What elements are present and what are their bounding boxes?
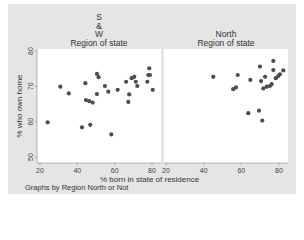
data-point <box>109 132 113 136</box>
data-point <box>151 88 155 92</box>
data-point <box>116 88 120 92</box>
by-note: Graphs by Region North or Not <box>25 183 128 192</box>
data-point <box>91 100 95 104</box>
data-point <box>106 90 110 94</box>
x-tick-label: 60 <box>111 167 119 174</box>
y-axis-title: % who own home <box>15 74 24 137</box>
x-tick-label: 40 <box>73 167 81 174</box>
data-point <box>147 66 151 70</box>
data-point <box>46 120 50 124</box>
x-tick-label: 80 <box>148 167 156 174</box>
y-tick-label: 70 <box>27 82 34 90</box>
data-point <box>271 68 275 72</box>
data-point <box>281 68 285 72</box>
data-point <box>278 72 282 76</box>
data-point <box>234 85 238 89</box>
x-tick-label: 20 <box>36 167 44 174</box>
y-tick-label: 60 <box>27 118 34 126</box>
data-point <box>148 73 152 77</box>
y-tick-label: 50 <box>27 153 34 161</box>
data-point <box>134 80 138 84</box>
data-point <box>126 100 130 104</box>
data-point <box>58 85 62 89</box>
data-point <box>83 81 87 85</box>
data-point <box>248 78 252 82</box>
data-point <box>135 84 139 88</box>
data-point <box>211 75 215 79</box>
data-point <box>127 92 131 96</box>
x-tick-label: 60 <box>237 167 245 174</box>
data-point <box>259 79 263 83</box>
x-tick-label: 40 <box>200 167 208 174</box>
data-point <box>124 80 128 84</box>
data-point <box>263 75 267 79</box>
data-point <box>260 119 264 123</box>
data-point <box>88 123 92 127</box>
data-point <box>236 73 240 77</box>
data-point <box>145 80 149 84</box>
data-point <box>246 111 250 115</box>
x-tick-label: 20 <box>162 167 170 174</box>
x-tick-label: 80 <box>275 167 283 174</box>
data-point <box>257 109 261 113</box>
data-point <box>258 64 262 68</box>
data-point <box>103 84 107 88</box>
data-point <box>80 125 84 129</box>
y-tick-label: 80 <box>27 47 34 55</box>
data-point <box>95 92 99 96</box>
data-point <box>132 75 136 79</box>
data-point <box>67 91 71 95</box>
data-point <box>271 59 275 63</box>
data-point <box>270 82 274 86</box>
data-point <box>97 75 101 79</box>
